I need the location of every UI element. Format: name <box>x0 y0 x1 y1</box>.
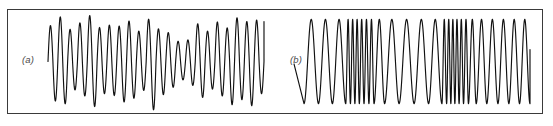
waveform-a-plot <box>8 10 276 113</box>
figure-frame: (a) (b) <box>7 9 543 114</box>
waveform-b-trace <box>294 19 530 103</box>
panel-b: (b) <box>276 10 544 113</box>
waveform-a-trace <box>48 16 264 110</box>
figure-root: (a) (b) <box>0 0 553 126</box>
waveform-b-plot <box>276 10 544 113</box>
panel-a: (a) <box>8 10 276 113</box>
